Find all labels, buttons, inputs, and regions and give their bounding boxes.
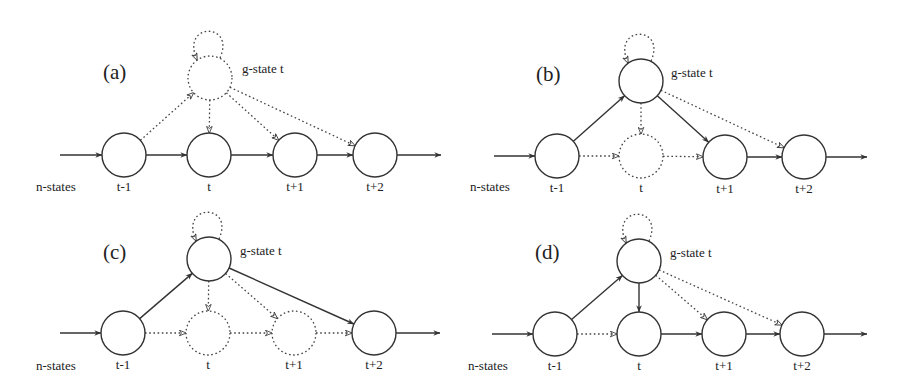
- n-states-label: n-states: [468, 358, 508, 373]
- n-states-label: n-states: [36, 179, 76, 194]
- n-state-label: t-1: [548, 358, 562, 373]
- n-state-node-t-1: [102, 133, 146, 177]
- n-state-node-t+1: [702, 312, 746, 356]
- n-state-node-t+1: [273, 133, 317, 177]
- panel-a: (a)g-state tt-1tt+1t+2n-states: [36, 31, 441, 194]
- n-state-label: t-1: [116, 357, 130, 372]
- g-state-node: [619, 59, 663, 103]
- n-state-label: t: [637, 358, 641, 373]
- n-state-node-t-1: [101, 311, 145, 355]
- state-transition-diagram: (a)g-state tt-1tt+1t+2n-states(b)g-state…: [0, 0, 904, 390]
- n-states-label: n-states: [470, 179, 510, 194]
- n-state-label: t+2: [365, 357, 382, 372]
- arrow-t-1-to-g-state: [140, 93, 193, 141]
- figure-stage: (a)g-state tt-1tt+1t+2n-states(b)g-state…: [0, 0, 904, 390]
- n-state-node-t: [617, 312, 661, 356]
- n-state-label: t-1: [550, 180, 564, 195]
- n-state-node-t: [186, 311, 230, 355]
- n-state-label: t: [639, 180, 643, 195]
- n-state-label: t+2: [795, 181, 812, 196]
- n-state-label: t+1: [715, 358, 732, 373]
- n-state-label: t+1: [716, 181, 733, 196]
- n-state-node-t+2: [352, 311, 396, 355]
- n-state-node-t: [187, 133, 231, 177]
- g-state-label: g-state t: [671, 65, 713, 80]
- panel-label: (a): [103, 60, 126, 84]
- n-state-node-t+2: [780, 312, 824, 356]
- n-state-label: t+1: [286, 179, 303, 194]
- panel-label: (b): [536, 62, 561, 86]
- n-state-label: t: [206, 357, 210, 372]
- n-state-node-t-1: [535, 134, 579, 178]
- arrow-g-state-to-t+1: [656, 275, 708, 319]
- n-state-label: t+1: [285, 357, 302, 372]
- n-states-label: n-states: [36, 358, 76, 373]
- g-state-label: g-state t: [670, 245, 712, 260]
- n-state-node-t: [619, 134, 663, 178]
- n-state-node-t+1: [703, 135, 747, 179]
- g-state-label: g-state t: [240, 243, 282, 258]
- arrow-g-state-to-t+1: [226, 273, 278, 318]
- arrow-t-1-to-g-state: [140, 273, 193, 318]
- g-state-label: g-state t: [242, 61, 284, 76]
- n-state-label: t+2: [366, 179, 383, 194]
- g-state-node: [188, 56, 232, 100]
- arrow-g-state-to-t+1: [226, 93, 278, 140]
- panel-label: (d): [535, 240, 560, 264]
- n-state-node-t+1: [272, 311, 316, 355]
- arrow-t-1-to-g-state: [573, 96, 624, 142]
- arrow-g-state-to-t+1: [657, 96, 708, 142]
- g-state-node: [187, 237, 231, 281]
- arrow-t-1-to-g-state: [572, 275, 623, 319]
- g-state-node: [617, 239, 661, 283]
- n-state-label: t+2: [793, 358, 810, 373]
- n-state-node-t-1: [533, 312, 577, 356]
- panel-d: (d)g-state tt-1tt+1t+2n-states: [468, 214, 867, 373]
- n-state-label: t-1: [117, 179, 131, 194]
- panel-b: (b)g-state tt-1tt+1t+2n-states: [470, 34, 867, 196]
- n-state-label: t: [207, 179, 211, 194]
- panel-label: (c): [103, 240, 126, 264]
- panel-c: (c)g-state tt-1tt+1t+2n-states: [36, 212, 440, 373]
- n-state-node-t+2: [353, 133, 397, 177]
- n-state-node-t+2: [782, 135, 826, 179]
